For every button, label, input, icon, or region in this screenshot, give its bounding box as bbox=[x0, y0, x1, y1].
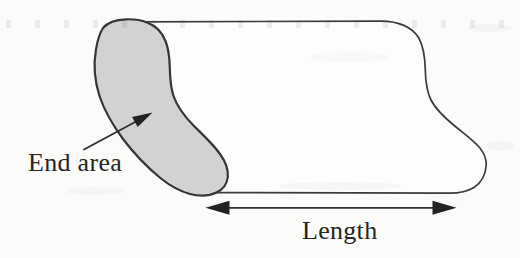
dimension-arrowhead-left-icon bbox=[206, 201, 230, 215]
dimension-arrowhead-right-icon bbox=[433, 201, 457, 215]
end-area-label: End area bbox=[28, 148, 122, 177]
length-dimension-arrow bbox=[206, 201, 457, 215]
prism-volume-diagram: End area Length bbox=[0, 0, 520, 258]
length-label: Length bbox=[302, 216, 377, 245]
prism-diagram-svg: End area Length bbox=[0, 0, 520, 258]
